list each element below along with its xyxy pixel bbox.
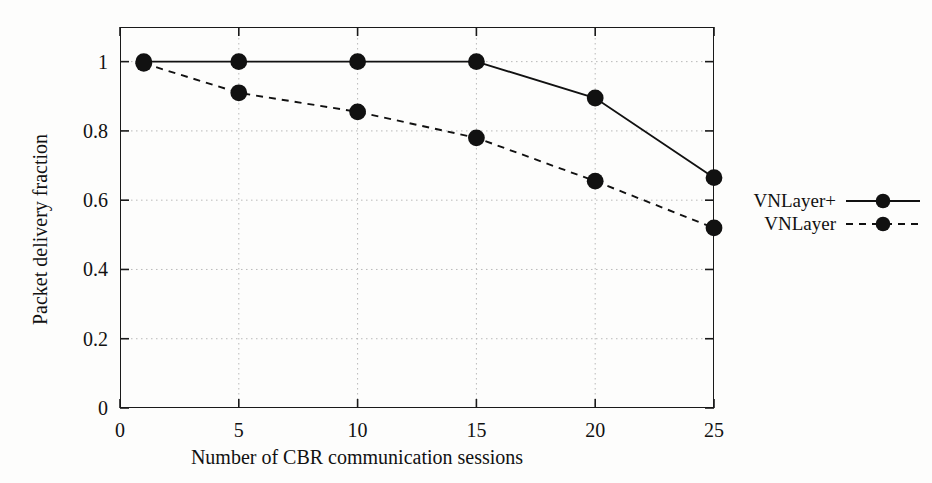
legend-label: VNLayer+ <box>754 190 836 212</box>
y-axis-title: Packet delivery fraction <box>29 134 51 325</box>
x-tick-label: 0 <box>115 420 125 440</box>
chart-canvas <box>0 0 932 483</box>
y-tick-label: 0.6 <box>56 190 108 210</box>
data-point-marker <box>135 55 152 72</box>
gridlines <box>121 28 713 407</box>
y-tick-label: 1 <box>56 52 108 72</box>
legend-item-vnlayer: VNLayer <box>726 212 922 235</box>
series-line-vnlayer- <box>144 62 714 178</box>
x-tick-label: 15 <box>466 420 486 440</box>
x-tick-label: 25 <box>704 420 724 440</box>
data-point-marker <box>349 53 366 70</box>
data-point-marker <box>706 219 723 236</box>
data-point-marker <box>230 53 247 70</box>
data-point-marker <box>230 84 247 101</box>
data-point-marker <box>468 53 485 70</box>
data-point-marker <box>468 129 485 146</box>
x-tick-label: 20 <box>585 420 605 440</box>
data-point-marker <box>349 103 366 120</box>
data-point-marker <box>587 90 604 107</box>
y-tick-label: 0.8 <box>56 121 108 141</box>
data-point-marker <box>587 173 604 190</box>
legend-sample-solid <box>844 192 922 210</box>
series-line-vnlayer <box>144 63 714 228</box>
y-axis-title-wrapper: Packet delivery fraction <box>29 30 52 430</box>
legend-label: VNLayer <box>764 213 836 235</box>
chart-figure: 00.20.40.60.81 0510152025 Number of CBR … <box>0 0 932 483</box>
legend: VNLayer+ VNLayer <box>726 189 922 235</box>
legend-item-vnlayer-plus: VNLayer+ <box>726 189 922 212</box>
x-tick-label: 10 <box>348 420 368 440</box>
y-tick-label: 0 <box>56 398 108 418</box>
data-series-layer <box>135 53 722 236</box>
y-tick-label: 0.4 <box>56 259 108 279</box>
legend-sample-dashed <box>844 215 922 233</box>
y-tick-label: 0.2 <box>56 329 108 349</box>
x-axis-title: Number of CBR communication sessions <box>0 446 714 469</box>
data-point-marker <box>706 169 723 186</box>
x-tick-label: 5 <box>234 420 244 440</box>
